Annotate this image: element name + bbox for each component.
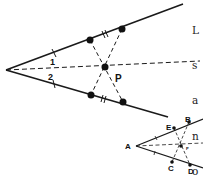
label-a: A: [125, 142, 131, 151]
label-point-p: P: [115, 73, 122, 84]
dashed-segment-1: [90, 40, 123, 102]
small-point-e: [172, 126, 176, 130]
label-e: E: [166, 123, 172, 132]
side-text-line: a: [192, 95, 203, 107]
label-small-p: P: [186, 146, 189, 151]
main-figure: [6, 4, 200, 117]
side-text-column: L s a n o o li: [192, 1, 203, 175]
dashed-segment-2: [91, 29, 122, 95]
point-lower-far: [120, 99, 127, 106]
side-text-line: o: [192, 166, 203, 175]
side-text-line: n: [192, 131, 203, 143]
label-c: C: [168, 164, 174, 173]
side-text-line: s: [192, 60, 203, 72]
side-text-line: L: [192, 25, 203, 37]
upper-ray: [6, 4, 183, 70]
small-point-p: [179, 144, 183, 148]
label-b: B: [185, 115, 191, 124]
point-upper-near: [87, 37, 94, 44]
point-p: [102, 64, 109, 71]
lower-ray: [6, 70, 168, 117]
point-upper-far: [119, 26, 126, 33]
label-angle-1: 1: [50, 57, 55, 67]
label-angle-2: 2: [48, 72, 53, 82]
angle-bisector-diagram: 1 2 P A E B C D P: [0, 0, 203, 175]
point-lower-near: [88, 92, 95, 99]
